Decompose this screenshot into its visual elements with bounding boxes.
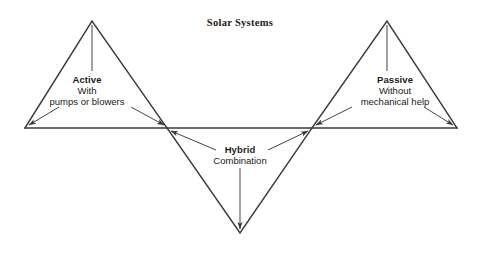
label-passive-line-1: Without: [330, 85, 460, 96]
label-hybrid-heading: Hybrid: [180, 144, 300, 155]
leader-passive-left: [316, 107, 352, 125]
label-passive-line-2: mechanical help: [330, 96, 460, 107]
label-passive-heading: Passive: [330, 74, 460, 85]
label-active: Active With pumps or blowers: [22, 74, 152, 108]
leader-active-left: [29, 107, 59, 125]
label-active-line-2: pumps or blowers: [22, 96, 152, 107]
label-hybrid-line-1: Combination: [180, 155, 300, 166]
label-hybrid: Hybrid Combination: [180, 144, 300, 166]
zigzag-outline: [25, 21, 457, 233]
label-passive: Passive Without mechanical help: [330, 74, 460, 108]
leader-lines: [29, 25, 453, 229]
label-active-line-1: With: [22, 85, 152, 96]
label-active-heading: Active: [22, 74, 152, 85]
diagram-graphic: [0, 0, 480, 255]
diagram-canvas: Solar Systems Active With pumps: [0, 0, 480, 255]
